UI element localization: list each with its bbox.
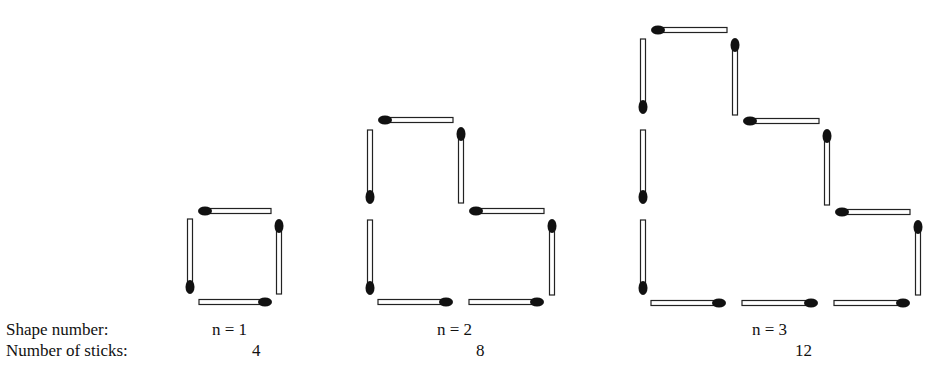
matchstick [639, 130, 648, 204]
matchstick-head-icon [469, 207, 483, 216]
matchstick [275, 219, 284, 294]
matchstick-body [476, 209, 544, 214]
number-of-sticks-label: Number of sticks: [6, 341, 128, 361]
matchstick [639, 220, 648, 295]
matchstick-head-icon [823, 129, 832, 143]
matchstick-head-icon [186, 280, 195, 294]
matchstick-body [277, 226, 282, 294]
matchstick-head-icon [258, 298, 272, 307]
matchstick-body [658, 28, 727, 33]
matchstick [366, 130, 375, 204]
matchstick-body [742, 301, 811, 306]
matchstick-head-icon [914, 220, 923, 234]
matchstick [651, 299, 726, 308]
matchstick [639, 39, 648, 114]
matchstick [378, 298, 453, 307]
matchstick-head-icon [439, 298, 453, 307]
matchstick-body [368, 220, 373, 288]
matchstick [457, 127, 466, 203]
shape-2-matchsticks [366, 116, 557, 307]
matchstick-body [842, 210, 910, 215]
matchstick [548, 219, 557, 295]
matchstick-body [641, 130, 646, 197]
matchstick-body [205, 209, 271, 214]
matchstick-body [378, 300, 446, 305]
matchstick [834, 299, 910, 308]
matchstick [469, 207, 544, 216]
matchstick-head-icon [835, 208, 849, 217]
shape-3-stick-count: 12 [795, 341, 812, 361]
matchstick [651, 26, 727, 35]
matchstick-body [459, 134, 464, 203]
shape-3-n-label: n = 3 [752, 320, 787, 340]
matchstick-head-icon [530, 298, 544, 307]
matchstick [823, 129, 832, 205]
matchstick-body [385, 118, 453, 123]
matchstick-body [651, 301, 719, 306]
matchstick-head-icon [548, 219, 557, 233]
matchstick-head-icon [639, 190, 648, 204]
matchstick-head-icon [198, 207, 212, 216]
matchstick-body [750, 119, 819, 124]
shape-3-matchsticks [639, 26, 923, 308]
shape-number-label: Shape number: [6, 320, 108, 340]
matchstick-body [199, 300, 265, 305]
matchstick-head-icon [731, 38, 740, 52]
shape-2-n-label: n = 2 [437, 320, 472, 340]
matchstick [366, 220, 375, 295]
matchstick-head-icon [639, 100, 648, 114]
matchstick-head-icon [712, 299, 726, 308]
matchstick [914, 220, 923, 295]
matchstick-body [733, 45, 738, 115]
matchstick [731, 38, 740, 115]
matchstick [835, 208, 910, 217]
matchstick-body [368, 130, 373, 197]
matchstick [199, 298, 272, 307]
matchstick-head-icon [743, 117, 757, 126]
matchstick [743, 117, 819, 126]
shape-1-matchsticks [186, 207, 284, 307]
shape-2-stick-count: 8 [476, 341, 485, 361]
matchstick-head-icon [366, 190, 375, 204]
matchstick-head-icon [804, 299, 818, 308]
matchstick-head-icon [457, 127, 466, 141]
matchstick-body [469, 300, 537, 305]
matchstick-body [641, 39, 646, 107]
matchstick [742, 299, 818, 308]
matchstick-body [825, 136, 830, 205]
matchstick-body [188, 219, 193, 287]
matchstick [186, 219, 195, 294]
matchstick-body [550, 226, 555, 295]
matchstick-head-icon [378, 116, 392, 125]
matchstick [469, 298, 544, 307]
matchstick [198, 207, 271, 216]
shape-1-n-label: n = 1 [212, 320, 247, 340]
matchstick-head-icon [651, 26, 665, 35]
shape-1-stick-count: 4 [252, 341, 261, 361]
matchstick-body [834, 301, 903, 306]
matchstick-body [641, 220, 646, 288]
matchstick-head-icon [896, 299, 910, 308]
matchstick-body [916, 227, 921, 295]
matchstick-head-icon [275, 219, 284, 233]
matchstick-head-icon [366, 281, 375, 295]
matchstick [378, 116, 453, 125]
matchstick-head-icon [639, 281, 648, 295]
